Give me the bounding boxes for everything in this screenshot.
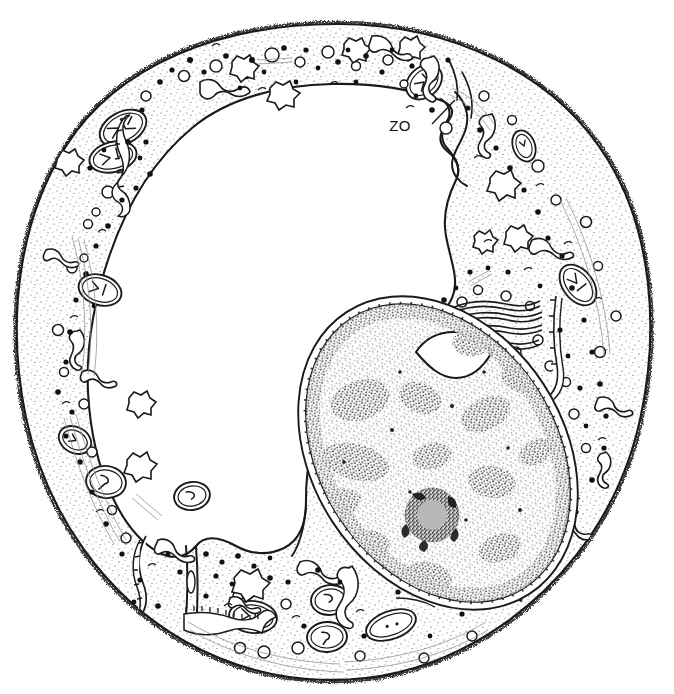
cell-ultrastructure-drawing: ZO bbox=[0, 0, 674, 694]
label-zo-text: ZO bbox=[389, 117, 411, 134]
figure-root: ZO Cell cross-section ultrastructure (ep… bbox=[0, 0, 674, 694]
